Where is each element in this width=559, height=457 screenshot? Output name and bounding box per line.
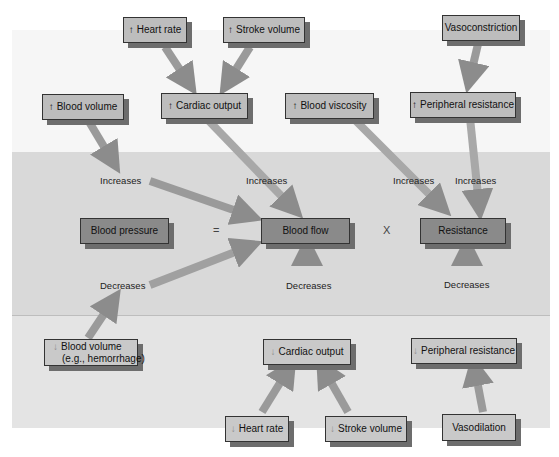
up-arrow-icon: ↑ [228, 24, 233, 36]
box-cardiac-output-decrease: ↓ Cardiac output [263, 339, 351, 365]
arrow-heart-rate-down-to-cardiac-output [262, 370, 288, 412]
label-increases-blood-volume: Increases [100, 175, 141, 186]
up-arrow-icon: ↑ [168, 100, 173, 112]
box-label: Vasoconstriction [445, 22, 518, 34]
down-arrow-icon: ↓ [413, 345, 418, 357]
box-blood-flow: Blood flow [261, 218, 350, 244]
down-arrow-icon: ↓ [330, 423, 335, 435]
up-arrow-icon: ↑ [49, 101, 54, 113]
arrow-vasoconstriction-to-peripheral-resistance [470, 44, 478, 78]
arrow-cardiac-output-to-blood-flow [208, 120, 292, 207]
multiply-sign: X [383, 224, 390, 236]
arrow-heart-rate-to-cardiac-output [165, 47, 188, 82]
box-heart-rate-increase: ↑ Heart rate [123, 17, 187, 43]
box-resistance: Resistance [420, 218, 506, 244]
arrow-blood-volume-down-to-decreases [88, 302, 112, 338]
label-increases-blood-viscosity: Increases [393, 175, 434, 186]
box-label: Peripheral resistance [421, 345, 515, 357]
arrow-decreases-to-blood-flow [150, 247, 248, 285]
box-label: Cardiac output [176, 100, 241, 112]
up-arrow-icon: ↑ [292, 100, 297, 112]
box-heart-rate-decrease: ↓ Heart rate [225, 416, 289, 442]
box-label: Stroke volume [338, 423, 402, 435]
box-vasodilation: Vasodilation [442, 414, 516, 441]
box-stroke-volume-decrease: ↓ Stroke volume [325, 416, 407, 442]
box-label: Blood volume [61, 341, 122, 352]
arrow-stroke-volume-to-cardiac-output [228, 47, 250, 82]
label-increases-peripheral-resistance: Increases [455, 175, 496, 186]
box-blood-viscosity-increase: ↑ Blood viscosity [285, 93, 374, 119]
equals-sign: = [213, 224, 219, 236]
label-decreases-cardiac-output: Decreases [286, 280, 331, 291]
box-cardiac-output-increase: ↑ Cardiac output [161, 93, 248, 119]
up-arrow-icon: ↑ [412, 99, 417, 111]
box-label: Stroke volume [236, 24, 300, 36]
arrow-blood-volume-to-increases [88, 120, 112, 160]
box-peripheral-resistance-decrease: ↓ Peripheral resistance [411, 338, 517, 364]
box-label: Blood pressure [91, 225, 158, 237]
arrow-stroke-volume-down-to-cardiac-output [324, 370, 348, 412]
arrow-peripheral-resistance-to-resistance [470, 118, 479, 205]
box-line-1: ↓Blood volume [53, 341, 122, 353]
box-label: Vasodilation [452, 422, 506, 434]
arrow-increases-to-blood-flow-left [150, 181, 248, 215]
box-label: Heart rate [239, 423, 283, 435]
box-label: Blood volume [57, 101, 118, 113]
label-decreases-peripheral-resistance: Decreases [444, 279, 489, 290]
box-label: Heart rate [137, 24, 181, 36]
label-increases-cardiac-output: Increases [246, 175, 287, 186]
down-arrow-icon: ↓ [270, 346, 275, 358]
arrow-blood-viscosity-to-resistance [355, 120, 440, 205]
box-blood-volume-increase: ↑ Blood volume [42, 94, 124, 120]
box-blood-volume-decrease: ↓Blood volume (e.g., hemorrhage) [44, 339, 138, 366]
box-label: Blood flow [282, 225, 328, 237]
box-stroke-volume-increase: ↑ Stroke volume [223, 17, 305, 43]
box-label: Resistance [438, 225, 487, 237]
box-label: Blood viscosity [300, 100, 366, 112]
box-vasoconstriction: Vasoconstriction [442, 15, 520, 41]
box-line-2: (e.g., hemorrhage) [53, 353, 145, 365]
box-label: Cardiac output [278, 346, 343, 358]
box-label: Peripheral resistance [420, 99, 514, 111]
arrow-vasodilation-to-peripheral-resistance [475, 370, 483, 412]
box-blood-pressure: Blood pressure [80, 218, 169, 244]
down-arrow-icon: ↓ [231, 423, 236, 435]
down-arrow-icon: ↓ [53, 341, 58, 352]
box-peripheral-resistance-increase: ↑ Peripheral resistance [410, 92, 516, 118]
label-decreases-blood-volume: Decreases [100, 280, 145, 291]
up-arrow-icon: ↑ [129, 24, 134, 36]
